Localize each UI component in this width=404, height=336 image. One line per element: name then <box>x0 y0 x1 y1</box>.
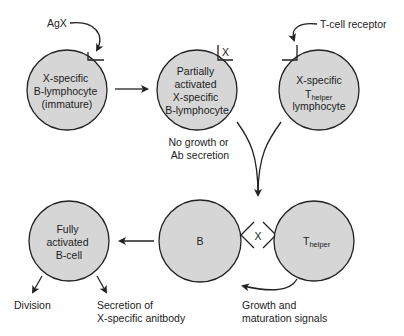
division-arrow <box>33 276 42 292</box>
antigen-arrow <box>70 23 100 50</box>
secretion-arrow <box>97 276 106 292</box>
t-helper-cell-label-2: lymphocyte <box>292 100 345 112</box>
immature-b-cell-label: X-specific B-lymphocyte (immature) <box>34 72 101 110</box>
tcr-label: T-cell receptor <box>320 18 387 30</box>
t-helper-cell-label: X-specific <box>296 74 342 86</box>
merge-curve-left <box>237 122 258 195</box>
no-growth-label: No growth or Ab secretion <box>168 136 231 161</box>
b-cell-activation-diagram: X-specific B-lymphocyte (immature) AgX P… <box>0 0 404 336</box>
merge-curve-right <box>258 122 281 195</box>
division-label: Division <box>14 299 51 311</box>
t-helper-cell <box>279 50 359 130</box>
growth-label: Growth and maturation signals <box>242 299 327 324</box>
antigen-label: AgX <box>47 17 67 29</box>
bound-antigen-label: X <box>222 46 229 58</box>
bridge-left-icon <box>241 222 254 248</box>
tcr-arrow <box>293 24 317 40</box>
secretion-label: Secretion of X-specific anitbody <box>97 299 186 324</box>
bridge-antigen-label: X <box>254 230 261 242</box>
growth-signal-arrow <box>243 279 297 290</box>
b-cell-label: B <box>196 235 203 247</box>
partially-activated-b-cell <box>157 50 237 130</box>
